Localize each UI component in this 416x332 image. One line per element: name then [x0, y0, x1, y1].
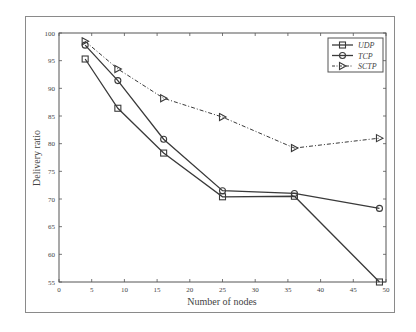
x-tick-label: 25	[219, 286, 227, 294]
y-tick-label: 75	[48, 168, 56, 176]
legend-label: UDP	[358, 41, 375, 50]
y-tick-label: 80	[48, 140, 56, 148]
legend-label: TCP	[358, 52, 373, 61]
legend-label: SCTP	[358, 62, 377, 71]
x-tick-label: 15	[154, 286, 162, 294]
y-tick-label: 70	[48, 196, 56, 204]
x-tick-label: 5	[90, 286, 94, 294]
x-tick-label: 40	[317, 286, 325, 294]
x-tick-label: 50	[383, 286, 391, 294]
y-tick-label: 100	[45, 30, 56, 38]
series-udp	[82, 56, 382, 285]
x-tick-label: 35	[284, 286, 292, 294]
y-tick-label: 55	[48, 279, 56, 287]
x-tick-label: 10	[121, 286, 129, 294]
y-tick-label: 60	[48, 251, 56, 259]
x-axis-label: Number of nodes	[187, 296, 257, 307]
x-tick-label: 30	[252, 286, 260, 294]
x-tick-label: 20	[186, 286, 194, 294]
data-series	[82, 38, 383, 285]
y-tick-label: 65	[48, 223, 56, 231]
line-chart: 0510152025303540455055606570758085909510…	[0, 0, 416, 332]
x-tick-label: 45	[350, 286, 358, 294]
y-tick-label: 90	[48, 85, 56, 93]
y-tick-label: 95	[48, 57, 56, 65]
x-tick-label: 0	[57, 286, 61, 294]
y-axis-label: Delivery ratio	[31, 130, 42, 186]
legend: UDPTCPSCTP	[328, 38, 383, 72]
y-tick-label: 85	[48, 113, 56, 121]
